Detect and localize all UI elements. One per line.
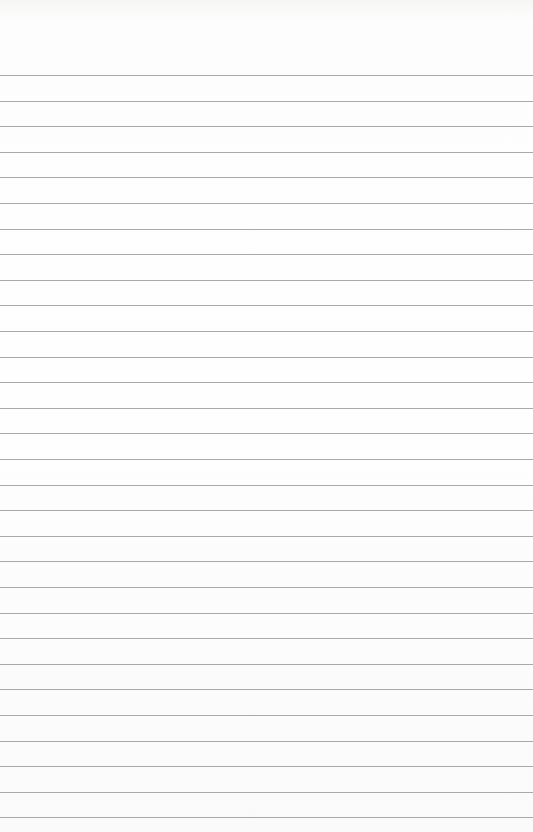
ruled-line	[0, 75, 533, 76]
ruled-line	[0, 689, 533, 690]
ruled-line	[0, 638, 533, 639]
ruled-line	[0, 357, 533, 358]
ruled-line	[0, 485, 533, 486]
ruled-line	[0, 536, 533, 537]
lined-paper	[0, 0, 533, 832]
ruled-line	[0, 101, 533, 102]
ruled-line	[0, 408, 533, 409]
ruled-line	[0, 254, 533, 255]
ruled-line	[0, 587, 533, 588]
ruled-line	[0, 792, 533, 793]
ruled-line	[0, 561, 533, 562]
ruled-line	[0, 331, 533, 332]
ruled-line	[0, 229, 533, 230]
ruled-line	[0, 510, 533, 511]
ruled-line	[0, 177, 533, 178]
ruled-line	[0, 613, 533, 614]
ruled-line	[0, 664, 533, 665]
ruled-line	[0, 766, 533, 767]
ruled-line	[0, 433, 533, 434]
ruled-line	[0, 741, 533, 742]
ruled-line	[0, 817, 533, 818]
ruled-line	[0, 715, 533, 716]
ruled-line	[0, 305, 533, 306]
ruled-line	[0, 152, 533, 153]
ruled-line	[0, 126, 533, 127]
ruled-line	[0, 280, 533, 281]
ruled-line	[0, 382, 533, 383]
ruled-line	[0, 203, 533, 204]
ruled-line	[0, 459, 533, 460]
